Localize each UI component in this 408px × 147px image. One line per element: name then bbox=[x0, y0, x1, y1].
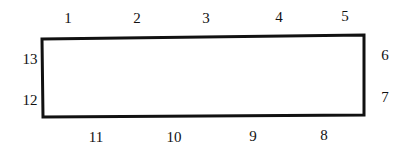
label-1: 1 bbox=[64, 11, 72, 26]
label-3: 3 bbox=[202, 11, 210, 26]
label-6: 6 bbox=[381, 48, 389, 63]
label-9: 9 bbox=[249, 129, 257, 144]
label-4: 4 bbox=[275, 10, 283, 25]
label-8: 8 bbox=[320, 128, 328, 143]
label-7: 7 bbox=[381, 90, 389, 105]
label-13: 13 bbox=[23, 52, 38, 67]
label-2: 2 bbox=[133, 11, 141, 26]
label-5: 5 bbox=[341, 9, 349, 24]
label-11: 11 bbox=[89, 130, 103, 145]
label-10: 10 bbox=[167, 130, 182, 145]
rectangle-outline bbox=[42, 35, 364, 117]
label-12: 12 bbox=[23, 93, 38, 108]
